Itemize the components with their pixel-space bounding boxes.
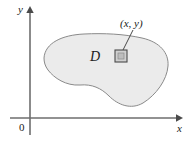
y-axis-arrowhead [26,6,33,13]
sample-point-label: (x, y) [120,18,143,29]
region-d-shape [44,34,168,107]
figure-canvas [0,0,196,143]
figure-double-integral-region: y x 0 D (x, y) [0,0,196,143]
y-axis-label: y [18,4,23,15]
x-axis-arrowhead [176,114,183,122]
region-d-label: D [90,50,100,64]
sample-point-square-inner [118,53,124,59]
origin-label: 0 [19,122,25,133]
x-axis-label: x [177,123,182,134]
